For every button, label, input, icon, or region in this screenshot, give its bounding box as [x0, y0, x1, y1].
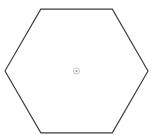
hexagon-canvas: [0, 0, 154, 138]
hub-dot-icon: [75, 70, 77, 72]
hexagon-diagram: Regular hexagon with radial spokes: [0, 0, 154, 138]
